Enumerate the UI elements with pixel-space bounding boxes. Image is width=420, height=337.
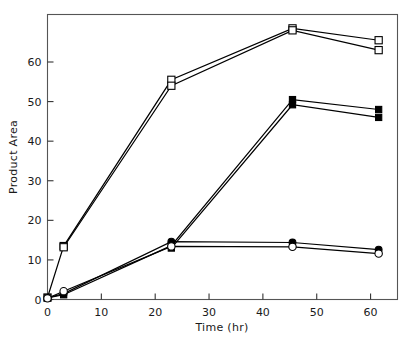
y-tick-label: 60 [28, 56, 42, 69]
data-point-open-square [375, 47, 382, 54]
x-axis-title: Time (hr) [194, 321, 248, 334]
data-point-open-circle [289, 243, 296, 250]
y-axis-title: Product Area [7, 120, 20, 194]
x-tick-label: 40 [256, 306, 270, 319]
data-point-open-circle [60, 287, 67, 294]
data-point-open-circle [44, 295, 51, 302]
chart-figure: 0102030405060 0102030405060 Product Area… [0, 0, 420, 337]
data-point-open-square [60, 244, 67, 251]
x-tick-label: 20 [148, 306, 162, 319]
y-tick-label: 0 [35, 294, 42, 307]
data-point-filled-square [289, 102, 295, 108]
x-tick-label: 10 [94, 306, 108, 319]
x-tick-label: 0 [44, 306, 51, 319]
x-tick-label: 30 [202, 306, 216, 319]
chart-background [0, 0, 420, 337]
data-point-filled-square [376, 114, 382, 120]
data-point-open-circle [168, 243, 175, 250]
y-tick-label: 50 [28, 96, 42, 109]
y-tick-label: 20 [28, 214, 42, 227]
y-tick-label: 30 [28, 175, 42, 188]
data-point-open-circle [375, 250, 382, 257]
data-point-open-square [375, 37, 382, 44]
data-point-open-square [168, 82, 175, 89]
x-tick-label: 60 [364, 306, 378, 319]
data-point-filled-square [376, 106, 382, 112]
y-tick-label: 10 [28, 254, 42, 267]
data-point-open-square [289, 27, 296, 34]
y-tick-label: 40 [28, 135, 42, 148]
product-area-line-chart: 0102030405060 0102030405060 Product Area… [0, 0, 420, 337]
x-tick-label: 50 [310, 306, 324, 319]
